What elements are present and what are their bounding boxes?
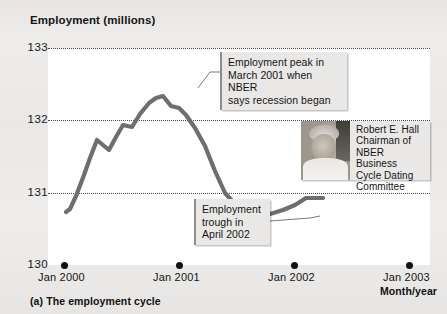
y-axis-label-130: 130 (14, 258, 48, 270)
x-axis-label-jan-2000: Jan 2000 (38, 271, 85, 283)
x-axis-tick-dot-jan-2003 (406, 262, 413, 269)
annotation-peak-line-1: Employment peak in (228, 56, 341, 69)
photo-callout-robert-e-hall: Robert E. Hall Chairman of NBER Business… (301, 121, 430, 180)
x-axis-label-jan-2001: Jan 2001 (153, 271, 200, 283)
y-axis-label-133: 133 (14, 41, 48, 53)
x-axis-label-jan-2002: Jan 2002 (268, 271, 315, 283)
robert-e-hall-photo (301, 121, 350, 180)
x-axis-tick-dot-jan-2002 (291, 262, 298, 269)
photo-background-shade (336, 121, 350, 161)
x-axis-title: Month/year (380, 285, 437, 297)
annotation-trough-line-3: April 2002 (202, 228, 264, 241)
photo-face (312, 134, 336, 160)
annotation-peak-line-3: says recession began (228, 94, 341, 107)
gridline-133 (48, 48, 430, 49)
peak-leader-line (198, 72, 222, 88)
y-axis-label-132: 132 (14, 113, 48, 125)
x-axis-label-jan-2003: Jan 2003 (383, 271, 430, 283)
annotation-peak: Employment peak in March 2001 when NBER … (220, 52, 347, 110)
gridline-131 (48, 193, 430, 194)
photo-caption: Robert E. Hall Chairman of NBER Business… (350, 121, 430, 180)
x-axis-tick-dot-jan-2000 (61, 262, 68, 269)
annotation-trough-line-2: trough in (202, 216, 264, 229)
annotation-trough-line-1: Employment (202, 203, 264, 216)
annotation-trough: Employment trough in April 2002 (194, 199, 270, 245)
chart-title: Employment (millions) (30, 14, 155, 26)
annotation-peak-line-2: March 2001 when NBER (228, 69, 341, 94)
figure-caption: (a) The employment cycle (30, 295, 161, 307)
x-axis-tick-dot-jan-2001 (176, 262, 183, 269)
photo-shirt (303, 158, 348, 180)
photo-caption-line-2: Chairman of (356, 135, 426, 146)
photo-caption-line-1: Robert E. Hall (356, 124, 426, 135)
y-axis-label-131: 131 (14, 186, 48, 198)
photo-caption-line-5: Committee (356, 181, 426, 192)
photo-caption-line-4: Cycle Dating (356, 170, 426, 181)
photo-caption-line-3: NBER Business (356, 147, 426, 170)
